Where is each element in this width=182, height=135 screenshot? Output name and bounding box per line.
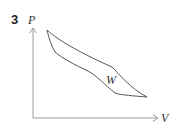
x-axis-label: V <box>161 111 170 125</box>
y-axis-label: P <box>27 13 36 27</box>
cycle-loop <box>47 30 147 97</box>
y-axis <box>30 28 37 118</box>
work-label: W <box>106 73 117 87</box>
pv-diagram: P V W <box>0 0 182 135</box>
x-axis <box>33 115 158 122</box>
